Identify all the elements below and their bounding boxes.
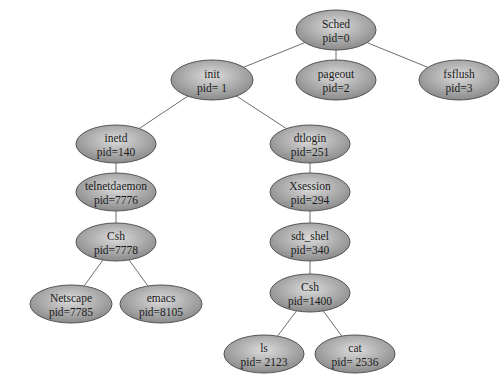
node-pid: pid=7785: [49, 306, 93, 319]
node-xsession: Xsessionpid=294: [270, 173, 350, 211]
node-pid: pid= 2536: [331, 356, 378, 369]
node-ellipse: [296, 10, 376, 50]
tree-svg: Schedpid=0initpid= 1pageoutpid=2fsflushp…: [0, 0, 502, 382]
node-telnetdaemon: telnetdaemonpid=7776: [76, 173, 156, 211]
node-ellipse: [171, 60, 253, 100]
node-name: Sched: [322, 18, 350, 30]
node-csh7778: Cshpid=7778: [76, 223, 156, 261]
node-pid: pid= 2123: [240, 356, 287, 369]
node-name: inetd: [105, 132, 128, 144]
node-ellipse: [296, 60, 376, 100]
node-pid: pid=1400: [288, 295, 332, 308]
node-ls: lspid= 2123: [224, 335, 304, 373]
node-csh1400: Cshpid=1400: [270, 274, 350, 312]
node-pageout: pageoutpid=2: [296, 60, 376, 100]
node-pid: pid=7778: [94, 244, 138, 257]
node-dtlogin: dtloginpid=251: [270, 125, 350, 163]
node-name: pageout: [318, 68, 355, 81]
node-pid: pid=3: [446, 82, 473, 95]
node-emacs: emacspid=8105: [120, 285, 202, 323]
node-pid: pid=0: [323, 32, 350, 45]
node-cat: catpid= 2536: [315, 335, 395, 373]
node-pid: pid=340: [291, 244, 330, 257]
node-name: Csh: [301, 281, 319, 293]
node-pid: pid=140: [97, 146, 136, 159]
node-pid: pid= 1: [197, 82, 227, 95]
node-name: Xsession: [289, 180, 331, 192]
node-name: telnetdaemon: [85, 180, 147, 192]
process-tree-diagram: Schedpid=0initpid= 1pageoutpid=2fsflushp…: [0, 0, 502, 382]
node-name: ls: [260, 342, 268, 354]
node-sched: Schedpid=0: [296, 10, 376, 50]
nodes-layer: Schedpid=0initpid= 1pageoutpid=2fsflushp…: [30, 10, 499, 373]
node-name: dtlogin: [294, 132, 327, 145]
node-name: init: [204, 68, 220, 80]
node-name: fsflush: [443, 68, 475, 80]
node-ellipse: [419, 60, 499, 100]
node-name: Netscape: [50, 292, 92, 305]
node-inetd: inetdpid=140: [76, 125, 156, 163]
node-pid: pid=2: [323, 82, 350, 95]
node-init: initpid= 1: [171, 60, 253, 100]
node-name: cat: [348, 342, 362, 354]
node-pid: pid=7776: [94, 194, 138, 207]
node-pid: pid=8105: [139, 306, 183, 319]
node-netscape: Netscapepid=7785: [30, 285, 112, 323]
node-name: emacs: [147, 292, 176, 304]
node-fsflush: fsflushpid=3: [419, 60, 499, 100]
node-pid: pid=294: [291, 194, 330, 207]
node-sdt_shel: sdt_shelpid=340: [270, 223, 350, 261]
node-pid: pid=251: [291, 146, 330, 159]
node-name: Csh: [107, 230, 125, 242]
node-name: sdt_shel: [291, 230, 329, 242]
